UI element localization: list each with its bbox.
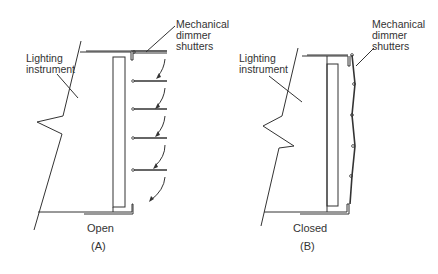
panel-b-shutter-label: Mechanical dimmer shutters	[372, 19, 425, 52]
panel-a-state-label: Open	[87, 222, 114, 234]
panel-a-shutter-label: Mechanical dimmer shutters	[176, 19, 229, 52]
panel-a-instrument-label: Lighting instrument	[26, 53, 75, 75]
panel-b-caption: (B)	[300, 240, 315, 252]
panel-b-state-label: Closed	[293, 222, 327, 234]
panel-b-instrument-label: Lighting instrument	[239, 53, 288, 75]
panel-a-caption: (A)	[91, 240, 106, 252]
